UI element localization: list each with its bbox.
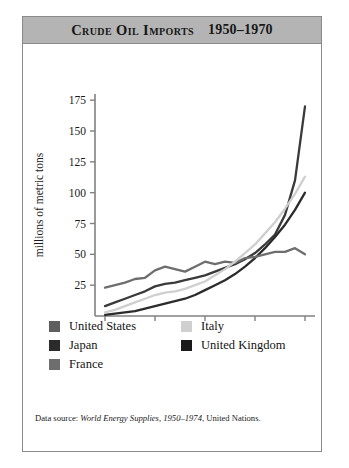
y-tick-label: 100 <box>69 187 87 199</box>
source-prefix: Data source: <box>35 413 80 423</box>
series-line-united-states <box>105 106 305 306</box>
data-series-group <box>105 106 305 314</box>
legend-item[interactable]: United Kingdom <box>181 336 321 355</box>
y-tick-label: 25 <box>75 279 87 291</box>
legend-item-label: Japan <box>69 338 97 353</box>
y-axis-label: millions of metric tons <box>33 152 45 257</box>
series-line-italy <box>105 177 305 313</box>
legend-swatch-icon <box>181 340 192 351</box>
y-tick-label: 150 <box>69 125 87 137</box>
legend-item-label: United Kingdom <box>201 338 285 353</box>
y-tick-label: 75 <box>75 218 87 230</box>
y-tick-label: 50 <box>75 248 87 260</box>
source-suffix: , United Nations. <box>202 413 261 423</box>
figure-panel: Crude Oil Imports 1950–1970 255075100125… <box>22 16 322 452</box>
source-note: Data source: World Energy Supplies, 1950… <box>35 413 313 423</box>
legend-column-left: United StatesJapanFrance <box>49 317 177 374</box>
legend-swatch-icon <box>49 340 60 351</box>
legend-item-label: Italy <box>201 319 224 334</box>
legend-item[interactable]: Italy <box>181 317 321 336</box>
chart-title: Crude Oil Imports <box>71 22 194 39</box>
line-chart-svg: 255075100125150175 19501955196019651970 … <box>23 44 321 322</box>
legend-swatch-icon <box>49 321 60 332</box>
legend-item[interactable]: United States <box>49 317 177 336</box>
legend-swatch-icon <box>49 359 60 370</box>
chart-title-bar: Crude Oil Imports 1950–1970 <box>23 17 321 44</box>
legend-item[interactable]: France <box>49 355 177 374</box>
y-tick-label: 125 <box>69 156 87 168</box>
legend-item-label: United States <box>69 319 136 334</box>
legend-column-right: ItalyUnited Kingdom <box>181 317 321 355</box>
chart-title-range: 1950–1970 <box>208 22 273 38</box>
y-tick-label: 175 <box>69 94 87 106</box>
legend-item[interactable]: Japan <box>49 336 177 355</box>
y-axis-ticks: 255075100125150175 <box>69 94 95 291</box>
legend-item-label: France <box>69 357 103 372</box>
chart-legend: United StatesJapanFrance ItalyUnited Kin… <box>23 317 321 374</box>
series-line-japan <box>105 193 305 315</box>
plot-area: 255075100125150175 19501955196019651970 … <box>23 44 321 322</box>
source-title: World Energy Supplies, 1950–1974 <box>80 413 202 423</box>
legend-swatch-icon <box>181 321 192 332</box>
